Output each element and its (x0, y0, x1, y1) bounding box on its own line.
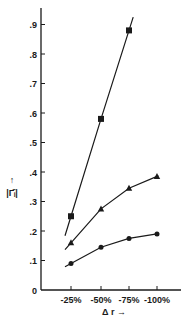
circle-marker (127, 236, 132, 241)
y-tick-label: 0 (32, 286, 37, 296)
y-tick-label: .3 (29, 197, 37, 207)
y-tick-label: .1 (29, 256, 37, 266)
series-line-circle (65, 234, 158, 267)
circle-marker (155, 231, 160, 236)
y-tick-label: .4 (29, 168, 37, 178)
y-tick-label: .2 (29, 227, 37, 237)
triangle-marker (98, 205, 104, 211)
y-axis-ticks: 0.1.2.3.4.5.6.7.8.9 (29, 20, 45, 296)
series-line-square (65, 17, 133, 236)
x-tick-label: -100% (144, 295, 170, 305)
axes (41, 8, 181, 290)
square-marker (98, 116, 104, 122)
y-tick-label: .6 (29, 109, 37, 119)
y-tick-label: .5 (29, 138, 37, 148)
x-tick-label: -25% (60, 295, 81, 305)
series-line-triangle (65, 176, 158, 250)
triangle-marker (154, 173, 160, 179)
x-axis-ticks: -25%-50%-75%-100% (60, 286, 170, 305)
x-tick-label: -75% (118, 295, 139, 305)
y-tick-label: .7 (29, 79, 37, 89)
circle-marker (99, 245, 104, 250)
x-axis-label: Δ r → (102, 307, 126, 317)
data-series (65, 17, 160, 267)
square-marker (126, 27, 132, 33)
y-tick-label: .9 (29, 20, 37, 30)
y-axis-label: |Γ̄ᵢ| (6, 188, 18, 198)
square-marker (68, 213, 74, 219)
y-axis-arrow: ↑ (10, 175, 15, 185)
line-chart: 0.1.2.3.4.5.6.7.8.9 -25%-50%-75%-100% ↑ … (0, 0, 188, 330)
y-tick-label: .8 (29, 50, 37, 60)
circle-marker (69, 261, 74, 266)
x-tick-label: -50% (90, 295, 111, 305)
